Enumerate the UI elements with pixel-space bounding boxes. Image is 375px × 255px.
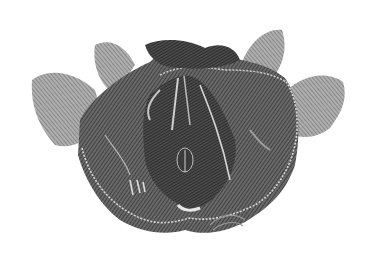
- anatomical-illustration: [0, 0, 375, 255]
- pelvis-engraving: [0, 0, 375, 255]
